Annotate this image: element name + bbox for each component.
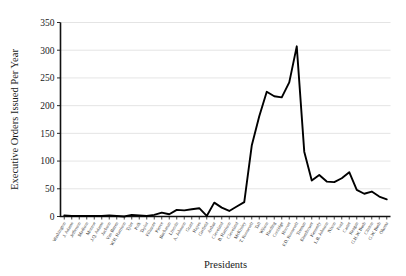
x-axis-title: Presidents: [204, 259, 247, 270]
y-tick-label: 50: [45, 184, 55, 194]
data-series-line: [64, 46, 387, 216]
chart-container: 050100150200250300350 WashingtonJ. Adams…: [0, 0, 406, 276]
x-axis-tick-labels: WashingtonJ. AdamsJeffersonMadisonMonroe…: [51, 220, 389, 247]
gridlines: [61, 23, 391, 189]
y-tick-label: 300: [40, 46, 55, 56]
y-tick-label: 100: [40, 156, 55, 166]
y-axis-title: Executive Orders Issued Per Year: [9, 49, 20, 190]
y-tick-label: 350: [40, 18, 55, 28]
y-tick-label: 250: [40, 73, 55, 83]
axis-lines: [61, 23, 391, 217]
y-axis-tick-labels: 050100150200250300350: [40, 18, 55, 222]
y-tick-label: 0: [50, 212, 55, 222]
y-tick-label: 200: [40, 101, 55, 111]
executive-orders-line-chart: 050100150200250300350 WashingtonJ. Adams…: [0, 0, 406, 276]
x-tick-label: Tyler: [125, 221, 134, 232]
y-tick-label: 150: [40, 129, 55, 139]
